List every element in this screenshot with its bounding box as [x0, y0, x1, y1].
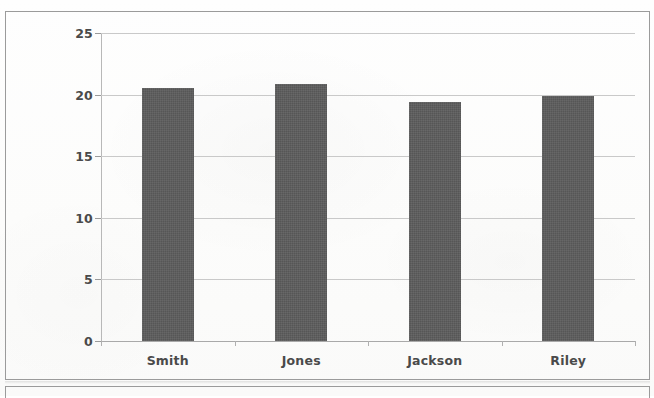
- y-axis-tick-label: 15: [15, 149, 93, 164]
- x-axis-tick-mark: [635, 341, 636, 346]
- plot-wrapper: 0510152025 SmithJonesJacksonRiley: [6, 12, 649, 379]
- plot-area: [101, 33, 635, 341]
- x-axis-tick-mark: [502, 341, 503, 346]
- x-axis-label-jones: Jones: [282, 353, 321, 368]
- bar-jackson: [409, 102, 461, 341]
- panel-shadow: [5, 381, 650, 384]
- y-axis-tick-label: 10: [15, 211, 93, 226]
- y-axis-tick-label: 25: [15, 26, 93, 41]
- x-axis-label-jackson: Jackson: [407, 353, 462, 368]
- bar-jones: [275, 84, 327, 341]
- x-axis-tick-mark: [101, 341, 102, 346]
- y-axis-tick-label: 0: [15, 334, 93, 349]
- bar-smith: [142, 88, 194, 341]
- x-axis-label-smith: Smith: [147, 353, 189, 368]
- x-axis-tick-mark: [368, 341, 369, 346]
- chart-panel: 0510152025 SmithJonesJacksonRiley: [5, 11, 650, 380]
- y-axis-tick-label: 5: [15, 272, 93, 287]
- lower-panel: [5, 386, 650, 398]
- bar-riley: [542, 96, 594, 341]
- y-axis-tick-label: 20: [15, 88, 93, 103]
- x-axis-tick-mark: [235, 341, 236, 346]
- x-axis-label-riley: Riley: [550, 353, 586, 368]
